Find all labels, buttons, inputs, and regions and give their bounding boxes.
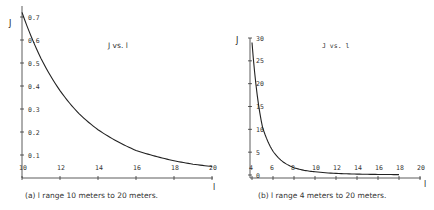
x-tick-label: 16: [375, 164, 383, 172]
chart-panel-a: 0.10.20.30.40.50.60.7 101214161820 J l J…: [8, 6, 217, 200]
y-tick-label: 5: [256, 149, 260, 157]
y-tick-label: 0.4: [28, 83, 40, 91]
y-tick-label: 0.5: [28, 60, 40, 68]
y-tick-label: 15: [256, 103, 264, 111]
x-tick-label: 20: [209, 164, 217, 172]
x-tick-label: 10: [312, 164, 320, 172]
caption-b: (b) l range 4 meters to 20 meters.: [258, 191, 386, 200]
y-tick-label: 0.2: [28, 129, 40, 137]
x-tick-label: 6: [270, 164, 274, 172]
x-tick-label: 14: [95, 164, 103, 172]
x-tick-label: 18: [396, 164, 404, 172]
figure: 0.10.20.30.40.50.60.7 101214161820 J l J…: [0, 0, 434, 210]
chart-panel-b: 051015202530 468101214161820 J l J vs. l…: [235, 35, 426, 201]
x-axis-label-b: l: [424, 180, 426, 189]
data-curve-a: [22, 12, 212, 166]
x-tick-label: 4: [249, 164, 253, 172]
data-curve-b: [252, 43, 399, 175]
y-tick-label: 0.7: [28, 14, 40, 22]
y-tick-label: 0.3: [28, 106, 40, 114]
x-tick-label: 12: [57, 164, 65, 172]
y-tick-label: 25: [256, 57, 264, 65]
x-axis-label-a: l: [213, 183, 215, 192]
caption-a: (a) l range 10 meters to 20 meters.: [25, 191, 158, 200]
y-tick-label: 0.1: [28, 152, 40, 160]
y-tick-label: 30: [256, 35, 264, 43]
x-tick-label: 10: [19, 164, 27, 172]
x-tick-label: 14: [354, 164, 362, 172]
chart-title-b: J vs. l: [322, 42, 349, 50]
y-ticks-a: 0.10.20.30.40.50.60.7: [20, 14, 40, 160]
y-tick-label: 0: [256, 172, 260, 180]
x-tick-label: 12: [333, 164, 341, 172]
x-tick-label: 20: [417, 164, 425, 172]
y-axis-label-a: J: [8, 19, 11, 28]
y-tick-label: 20: [256, 80, 264, 88]
x-tick-label: 16: [133, 164, 141, 172]
chart-title-a: J vs. l: [107, 41, 128, 50]
y-axis-label-b: J: [235, 36, 238, 45]
x-tick-label: 18: [171, 164, 179, 172]
